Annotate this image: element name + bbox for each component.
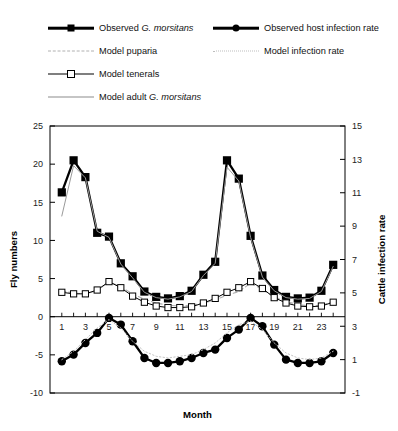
data-point — [94, 287, 100, 293]
data-point — [306, 294, 314, 302]
svg-text:1: 1 — [59, 322, 64, 332]
data-point — [118, 285, 124, 291]
data-point — [93, 329, 101, 337]
data-point — [283, 300, 289, 306]
data-point — [71, 291, 77, 297]
svg-text:-1: -1 — [352, 388, 360, 398]
svg-text:19: 19 — [269, 322, 279, 332]
data-point — [223, 156, 231, 164]
svg-text:15: 15 — [222, 322, 232, 332]
data-point — [140, 354, 148, 362]
data-point — [153, 303, 159, 309]
data-point — [176, 357, 184, 365]
svg-text:-10: -10 — [30, 388, 43, 398]
data-point — [189, 304, 195, 310]
data-point — [211, 345, 219, 353]
data-point — [129, 272, 137, 280]
data-point — [329, 261, 337, 269]
svg-text:1: 1 — [352, 355, 357, 365]
svg-text:Fly numbers: Fly numbers — [8, 231, 19, 288]
svg-text:9: 9 — [154, 322, 159, 332]
data-point — [235, 325, 243, 333]
data-point — [105, 314, 113, 322]
data-point — [236, 285, 242, 291]
svg-text:5: 5 — [352, 288, 357, 298]
chart-svg: -10-50510152025-113579111315135791113151… — [0, 0, 398, 431]
svg-text:3: 3 — [83, 322, 88, 332]
svg-text:5: 5 — [106, 322, 111, 332]
data-point — [59, 289, 65, 295]
data-point — [141, 299, 147, 305]
data-point — [270, 340, 278, 348]
figure-root: Observed G. morsitans Observed host infe… — [0, 0, 398, 431]
svg-text:15: 15 — [33, 198, 43, 208]
svg-text:11: 11 — [352, 188, 361, 198]
data-point — [106, 279, 112, 285]
svg-text:0: 0 — [38, 312, 43, 322]
data-point — [58, 188, 66, 196]
data-point — [248, 279, 254, 285]
svg-text:13: 13 — [352, 155, 362, 165]
chart-plot-area: -10-50510152025-113579111315135791113151… — [0, 0, 398, 431]
data-point — [200, 300, 206, 306]
svg-text:3: 3 — [352, 322, 357, 332]
series-model-adult-g-morsitans — [62, 166, 333, 300]
data-point — [82, 291, 88, 297]
data-point — [259, 285, 265, 291]
data-point — [70, 156, 78, 164]
series-observed-g-morsitans — [58, 156, 338, 302]
data-point — [282, 355, 290, 363]
data-point — [330, 299, 336, 305]
svg-text:9: 9 — [352, 221, 357, 231]
data-point — [271, 295, 277, 301]
svg-text:20: 20 — [33, 159, 43, 169]
data-point — [224, 289, 230, 295]
svg-text:13: 13 — [198, 322, 208, 332]
svg-text:-5: -5 — [35, 350, 43, 360]
data-point — [199, 349, 207, 357]
svg-text:Month: Month — [183, 409, 212, 420]
series-model-puparia — [62, 282, 333, 306]
svg-text:23: 23 — [316, 322, 326, 332]
svg-text:21: 21 — [293, 322, 303, 332]
data-point — [58, 357, 66, 365]
data-point — [105, 233, 113, 241]
data-point — [177, 304, 183, 310]
data-point — [294, 359, 302, 367]
data-point — [318, 303, 324, 309]
svg-text:7: 7 — [352, 255, 357, 265]
data-point — [223, 334, 231, 342]
svg-text:Cattle infection rate: Cattle infection rate — [376, 215, 387, 305]
svg-text:7: 7 — [130, 322, 135, 332]
data-point — [130, 293, 136, 299]
data-point — [212, 295, 218, 301]
data-point — [152, 359, 160, 367]
data-point — [164, 359, 172, 367]
data-point — [295, 303, 301, 309]
data-point — [317, 357, 325, 365]
svg-text:15: 15 — [352, 121, 362, 131]
svg-text:11: 11 — [175, 322, 184, 332]
data-point — [307, 304, 313, 310]
data-point — [165, 304, 171, 310]
svg-text:5: 5 — [38, 274, 43, 284]
svg-text:25: 25 — [33, 121, 43, 131]
svg-text:10: 10 — [33, 236, 43, 246]
